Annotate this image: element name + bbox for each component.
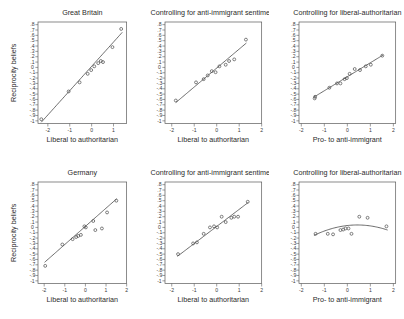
x-tick-label: 1 [237,287,240,293]
data-point [236,215,239,218]
x-axis-label: Liberal to authoritarian [47,295,119,304]
data-point [78,81,81,84]
data-point [90,69,93,72]
x-axis-ticks: -2-1012 [169,283,263,293]
data-point [40,118,43,121]
x-tick-label: -2 [299,128,304,134]
data-point [244,38,247,41]
data-point [174,99,177,102]
x-tick-label: 0 [215,287,218,293]
plot-area [176,200,249,256]
x-axis-ticks: -2-1012 [299,124,395,134]
fit-line [314,55,383,97]
x-tick-label: 1 [369,287,372,293]
plot-panel-de-anti-immigrant: Controlling for anti-immigrant sentiment… [135,160,270,319]
x-tick-label: -2 [169,287,174,293]
x-tick-label: 0 [346,128,349,134]
x-axis-ticks: -2-101 [46,124,116,134]
x-axis-label: Pro- to anti-immigrant [313,295,382,304]
data-point [224,220,227,223]
data-points [44,199,118,267]
data-point [115,199,118,202]
data-point [350,232,353,235]
x-tick-label: -2 [46,127,51,133]
plot-area [314,215,388,236]
data-point [100,227,103,230]
x-axis-ticks: -2-1012 [169,124,263,134]
data-point [339,82,342,85]
data-point [349,72,352,75]
data-point [79,233,82,236]
plot-frame [299,22,396,124]
data-point [106,211,109,214]
y-tick-label: -1 [291,118,296,124]
x-tick-label: 0 [84,287,87,293]
x-axis-label: Pro- to anti-immigrant [313,136,382,145]
data-point [227,60,230,63]
x-axis-label: Liberal to authoritarian [47,135,119,144]
data-point [202,232,205,235]
y-tick-label: -1 [30,118,35,124]
x-tick-label: 0 [346,287,349,293]
x-tick-label: 0 [90,127,93,133]
plot-panel-gb-liberal-authoritarian: Controlling for liberal-authoritarian.8.… [269,0,404,160]
data-point [120,27,123,30]
x-axis-ticks: -2-1012 [42,283,128,293]
y-axis-ticks: .8.7.6.5.4.3.2.10-.1-.2-.3-.4-.5-.6-.7-.… [291,181,300,283]
x-tick-label: 2 [392,287,395,293]
panel-title: Controlling for anti-immigrant sentiment [150,168,269,177]
plot-frame [38,22,127,124]
data-point [385,224,388,227]
data-point [347,227,350,230]
plot-panel-gb-anti-immigrant: Controlling for anti-immigrant sentiment… [135,0,270,160]
data-point [208,225,211,228]
data-point [44,264,47,267]
panel-title: Controlling for liberal-authoritarian [294,8,402,17]
data-points [174,38,247,102]
x-axis-label: Liberal to authoritarian [177,295,249,304]
y-axis-ticks: .8.7.6.5.4.3.2.10-.1-.2-.3-.4-.5-.6-.7-.… [29,181,38,283]
data-point [212,224,215,227]
x-axis-label: Liberal to authoritarian [177,136,249,145]
x-tick-label: 2 [260,128,263,134]
plot-area [44,198,118,267]
data-point [71,237,74,240]
data-point [220,215,223,218]
y-tick-label: -1 [291,277,296,283]
plot-frame [38,182,127,284]
plot-frame [165,182,262,284]
x-tick-label: -1 [67,127,72,133]
figure-panel-grid: Great Britain.8.7.6.5.4.3.2.10-.1-.2-.3-… [0,0,404,319]
panel-title: Controlling for anti-immigrant sentiment [150,8,269,17]
data-point [332,232,335,235]
data-point [93,65,96,68]
x-tick-label: 1 [112,127,115,133]
data-point [61,243,64,246]
data-point [92,219,95,222]
x-tick-label: -1 [322,287,327,293]
data-point [358,215,361,218]
x-tick-label: -1 [192,287,197,293]
data-point [230,216,233,219]
data-point [97,62,100,65]
x-tick-label: -2 [299,287,304,293]
plot-area [174,38,247,102]
data-points [40,27,123,120]
data-point [366,216,369,219]
data-point [214,71,217,74]
x-tick-label: -2 [169,128,174,134]
x-tick-label: 2 [125,287,128,293]
fit-line [41,32,122,122]
y-tick-label: -1 [157,118,162,124]
data-point [327,232,330,235]
data-point [194,81,197,84]
x-axis-ticks: -2-1012 [299,283,395,293]
plot-frame [165,22,262,124]
x-tick-label: 2 [260,287,263,293]
panel-title: Controlling for liberal-authoritarian [294,168,402,177]
fit-line [177,202,248,256]
y-axis-ticks: .8.7.6.5.4.3.2.10-.1-.2-.3-.4-.5-.6-.7-.… [156,181,165,283]
x-tick-label: -1 [63,287,68,293]
y-axis-label: Reciprocity beliefs [9,43,18,102]
y-axis-ticks: .8.7.6.5.4.3.2.10-.1-.2-.3-.4-.5-.6-.7-.… [291,21,300,123]
